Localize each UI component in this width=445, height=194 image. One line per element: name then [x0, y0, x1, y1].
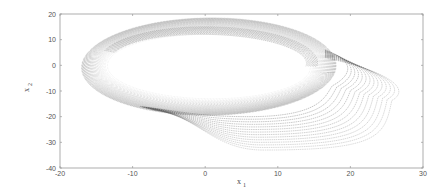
spiral-curve	[147, 53, 370, 132]
trajectory-loop	[98, 29, 319, 105]
y-axis-label: x2	[22, 83, 33, 92]
spiral-curve	[153, 57, 394, 147]
y-tick-label: -20	[46, 113, 56, 120]
x-tick-label: -20	[55, 170, 65, 177]
trajectory-loop	[89, 22, 330, 111]
phase-plot: -20-100102030 20100-10-20-30-40 x1 x2	[0, 0, 445, 194]
x-axis-label: x1	[237, 177, 246, 188]
y-tick-label: -30	[46, 139, 56, 146]
y-tick-label: -10	[46, 88, 56, 95]
y-tick-label: 10	[48, 36, 56, 43]
spiral-curve	[143, 52, 358, 125]
spiral-curve	[149, 55, 378, 138]
trajectory-loop	[107, 35, 310, 99]
y-tick-label: -40	[46, 165, 56, 172]
plot-frame	[60, 14, 423, 168]
x-tick-label: 10	[274, 170, 282, 177]
x-tick-label: 30	[419, 170, 427, 177]
spiral-curve	[140, 50, 348, 117]
trajectory-loop	[100, 30, 318, 104]
trajectory-loop	[89, 23, 329, 111]
trajectory	[82, 18, 399, 150]
trajectory-loop	[91, 24, 326, 109]
trajectory-loop	[104, 32, 313, 100]
spiral-curve	[148, 54, 374, 135]
y-tick-label: 20	[48, 11, 56, 18]
x-tick-label: 20	[347, 170, 355, 177]
spiral-curve	[145, 53, 366, 130]
spiral-curve	[150, 55, 382, 140]
trajectory-loop	[95, 26, 323, 106]
trajectory-loop	[84, 20, 333, 114]
trajectory-loop	[82, 18, 337, 115]
x-tick-label: -10	[128, 170, 138, 177]
spiral-curve	[154, 58, 398, 150]
trajectory-loop	[83, 19, 336, 115]
y-tick-label: 0	[52, 62, 56, 69]
x-tick-label: 0	[203, 170, 207, 177]
inner-trajectory	[107, 28, 315, 66]
